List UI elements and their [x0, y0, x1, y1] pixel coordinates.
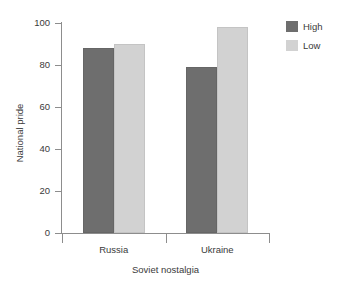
legend-item-low[interactable]: Low	[286, 38, 344, 53]
y-axis-tick-label: 100	[10, 18, 50, 28]
legend-item-high[interactable]: High	[286, 19, 344, 34]
bar-russia-high	[83, 48, 114, 233]
x-axis-category-label-russia: Russia	[62, 245, 166, 255]
legend-swatch-high	[286, 21, 298, 32]
legend: HighLow	[286, 19, 344, 57]
x-axis-group-tick	[62, 234, 63, 243]
x-axis-category-label-ukraine: Ukraine	[166, 245, 270, 255]
x-axis-group-tick	[166, 234, 167, 243]
bar-ukraine-high	[186, 67, 217, 233]
y-axis-tick	[55, 233, 62, 234]
y-axis-tick	[55, 23, 62, 24]
legend-swatch-low	[286, 40, 298, 51]
legend-label-low: Low	[303, 41, 320, 51]
y-axis-tick	[55, 149, 62, 150]
y-axis-tick	[55, 107, 62, 108]
y-axis-title: National pride	[13, 28, 27, 238]
bar-chart-figure: 020406080100 RussiaUkraine National prid…	[0, 0, 346, 289]
x-axis-group-tick	[269, 234, 270, 243]
x-axis-title: Soviet nostalgia	[61, 265, 270, 275]
y-axis-tick	[55, 65, 62, 66]
legend-label-high: High	[303, 22, 323, 32]
bar-ukraine-low	[217, 27, 248, 233]
y-axis-tick	[55, 191, 62, 192]
plot-area	[62, 23, 269, 233]
bar-russia-low	[114, 44, 145, 233]
